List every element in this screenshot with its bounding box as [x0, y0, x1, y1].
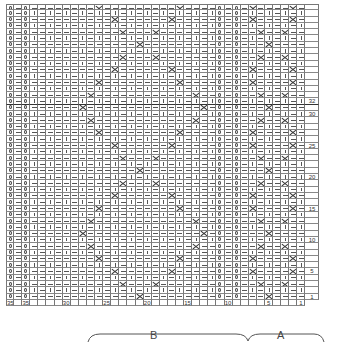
column-number	[38, 300, 46, 306]
column-number: 5	[265, 300, 273, 306]
column-number	[176, 300, 184, 306]
column-number	[95, 300, 103, 306]
column-number: 30	[63, 300, 71, 306]
column-number: 20	[144, 300, 152, 306]
column-number	[257, 300, 265, 306]
column-number: 35	[22, 300, 30, 306]
section-brace	[86, 328, 326, 344]
section-a-label: A	[277, 329, 284, 341]
column-number: 35	[6, 300, 14, 306]
column-number	[273, 300, 281, 306]
row-number: 1	[305, 294, 319, 300]
column-number	[168, 300, 176, 306]
column-number-row: 3535302520151051	[6, 300, 319, 306]
column-number	[192, 300, 200, 306]
column-number: 25	[103, 300, 111, 306]
knitting-chart-grid: 323025201510513535302520151051	[6, 4, 319, 306]
column-number	[233, 300, 241, 306]
column-number	[79, 300, 87, 306]
column-number	[30, 300, 38, 306]
column-number	[281, 300, 289, 306]
column-number	[152, 300, 160, 306]
column-number	[249, 300, 257, 306]
column-number	[136, 300, 144, 306]
column-number	[127, 300, 135, 306]
column-number	[289, 300, 297, 306]
column-number	[71, 300, 79, 306]
column-number	[119, 300, 127, 306]
column-number	[200, 300, 208, 306]
column-number	[241, 300, 249, 306]
column-number	[46, 300, 54, 306]
column-number: 10	[225, 300, 233, 306]
column-number	[14, 300, 22, 306]
column-number	[160, 300, 168, 306]
column-number: 1	[297, 300, 305, 306]
column-number: 15	[184, 300, 192, 306]
column-number	[111, 300, 119, 306]
column-number	[208, 300, 216, 306]
column-number	[216, 300, 224, 306]
column-number	[55, 300, 63, 306]
section-b-label: B	[150, 329, 157, 341]
column-number	[87, 300, 95, 306]
